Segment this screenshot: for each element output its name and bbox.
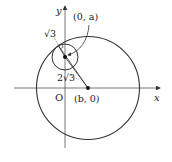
y-axis-label: y: [55, 5, 62, 16]
coordinate-diagram: y x O (b, 0) (0, a) √3 2√3: [0, 0, 172, 162]
pointer-arrow: [68, 25, 89, 55]
origin-label: O: [55, 92, 63, 103]
large-center-label: (b, 0): [74, 93, 100, 104]
small-center-label: (0, a): [73, 11, 98, 22]
distance-label: 2√3: [57, 72, 75, 83]
x-axis-label: x: [154, 92, 160, 103]
small-radius-label: √3: [44, 28, 56, 39]
large-center-dot: [86, 86, 90, 90]
small-center-dot: [63, 55, 67, 59]
